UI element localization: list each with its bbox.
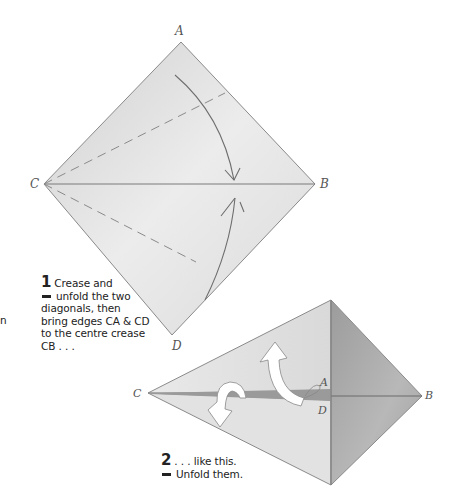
step-1-line-2: unfold the two (56, 290, 131, 302)
step-2-line-2: Unfold them. (176, 468, 243, 480)
step-1-instructions: 1Crease and unfold the two diagonals, th… (41, 276, 150, 353)
step-1-line-3: diagonals, then (41, 302, 121, 314)
kite-right-dark (331, 300, 422, 485)
label-b-right: B (320, 178, 329, 190)
label-b-kite: B (425, 390, 433, 401)
label-a-top: A (175, 25, 184, 37)
step-bar-icon (162, 473, 171, 476)
step-1-line-1: Crease and (54, 277, 112, 289)
step-1-line-6: CB . . . (41, 340, 75, 352)
step-1-number: 1 (41, 273, 51, 291)
step-2-number: 2 (161, 451, 171, 469)
label-c-left: C (30, 178, 39, 190)
step-2-instructions: 2. . . like this. Unfold them. (161, 454, 243, 480)
label-d-bottom: D (172, 340, 182, 352)
label-c-kite: C (133, 388, 141, 399)
stray-text-fragment: n (0, 314, 7, 326)
origami-diagrams (0, 0, 455, 504)
step-1-line-5: to the centre crease (41, 327, 145, 339)
step-bar-icon (42, 295, 51, 298)
step-1-line-4: bring edges CA & CD (41, 315, 150, 327)
step-2-line-1: . . . like this. (174, 455, 236, 467)
label-d-kite: D (318, 405, 327, 416)
label-a-kite: A (320, 377, 328, 388)
